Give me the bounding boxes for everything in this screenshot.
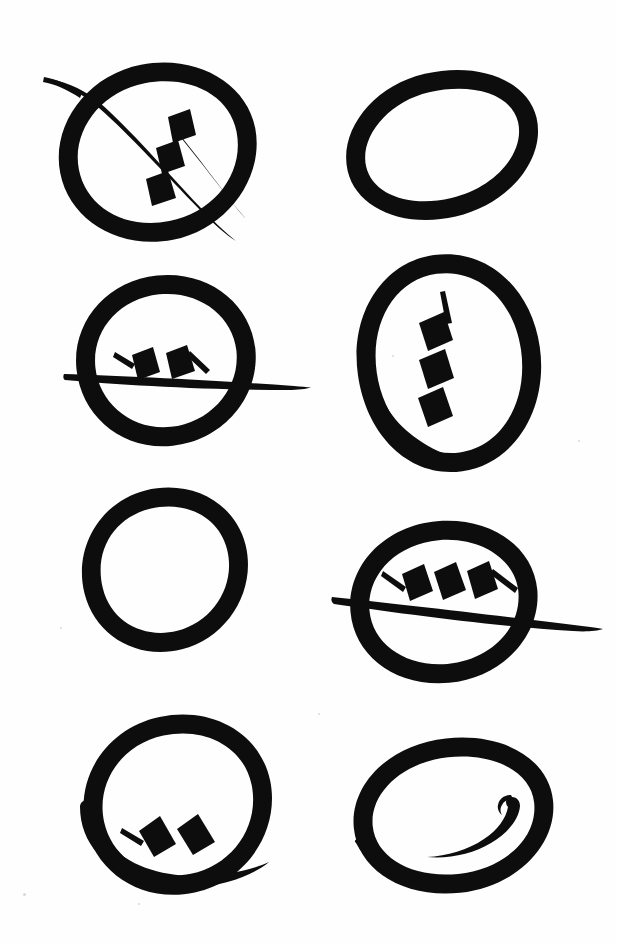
- diamond-mark: [139, 816, 176, 857]
- calligraphy-plate: Eight hand-drawn black ink calligraphic …: [0, 0, 617, 944]
- figure-8: [348, 735, 563, 900]
- scan-speck: [138, 903, 140, 905]
- figure-5-artwork: [78, 485, 258, 655]
- diamond-mark: [168, 109, 196, 143]
- diamond-mark: [419, 349, 454, 389]
- scan-speck: [23, 893, 26, 896]
- figure-3-artwork: [62, 272, 332, 452]
- figure-6-artwork: [330, 518, 610, 688]
- figure-1-artwork: [30, 55, 300, 255]
- figure-4: [352, 250, 552, 478]
- figure-5: [78, 485, 258, 655]
- scan-speck: [318, 713, 320, 715]
- diamond-mark: [434, 562, 466, 600]
- figure-8-artwork: [348, 735, 563, 900]
- diamond-tick: [113, 352, 135, 369]
- figure-7: [72, 712, 287, 902]
- diamond-mark: [156, 140, 185, 174]
- ink-ring: [68, 266, 265, 455]
- figure-7-artwork: [72, 712, 287, 902]
- diamond-mark: [177, 814, 215, 855]
- figure-2: [338, 68, 548, 223]
- diamond-mark: [418, 387, 453, 427]
- figure-3: [62, 272, 332, 452]
- figure-1: [30, 55, 300, 255]
- ink-ring: [64, 470, 266, 669]
- figure-4-artwork: [352, 250, 552, 478]
- ink-ring: [346, 728, 562, 903]
- figure-2-artwork: [338, 68, 548, 223]
- diamond-mark: [132, 347, 160, 380]
- ink-ring: [330, 52, 554, 238]
- diamond-mark: [467, 561, 498, 599]
- scan-speck: [578, 440, 580, 442]
- figure-6: [330, 518, 610, 688]
- diamond-mark: [402, 564, 433, 601]
- inner-hook: [427, 797, 520, 857]
- diamond-mark: [166, 345, 195, 379]
- scan-speck: [392, 355, 394, 357]
- scan-speck: [60, 627, 62, 629]
